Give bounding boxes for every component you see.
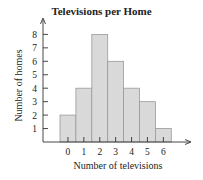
y-tick-label: 1 [32, 124, 37, 134]
bar [108, 61, 124, 142]
bar [76, 88, 92, 142]
x-tick-label: 3 [113, 147, 118, 157]
x-tick-label: 5 [145, 147, 150, 157]
x-tick-label: 2 [97, 147, 102, 157]
x-tick-label: 1 [81, 147, 86, 157]
bar [92, 34, 108, 142]
y-tick-label: 4 [32, 84, 37, 94]
y-tick-label: 6 [32, 57, 37, 67]
x-tick-label: 6 [161, 147, 166, 157]
x-tick-label: 0 [66, 147, 71, 157]
y-tick-label: 8 [32, 30, 37, 40]
bar [124, 88, 140, 142]
y-tick-label: 3 [32, 97, 37, 107]
y-tick-label: 5 [32, 70, 37, 80]
x-tick-label: 4 [129, 147, 134, 157]
plot-area: 012345612345678 [0, 0, 203, 180]
bar [140, 102, 156, 142]
y-tick-label: 7 [32, 43, 37, 53]
y-tick-label: 2 [32, 111, 37, 121]
